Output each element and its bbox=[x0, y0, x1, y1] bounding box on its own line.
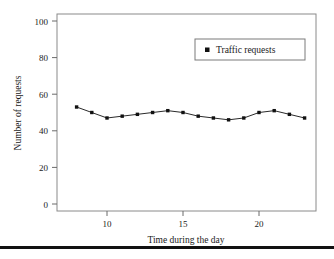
x-axis-title: Time during the day bbox=[148, 235, 225, 245]
data-point-marker bbox=[151, 111, 154, 114]
y-axis: 100 80 60 40 20 0 Number of requests bbox=[13, 17, 57, 210]
y-tick-label-20: 20 bbox=[39, 163, 49, 173]
y-tick-label-80: 80 bbox=[39, 53, 49, 63]
y-tick-label-100: 100 bbox=[35, 17, 49, 27]
data-point-marker bbox=[227, 118, 230, 121]
x-tick-label-10: 10 bbox=[103, 219, 113, 229]
y-tick-label-60: 60 bbox=[39, 90, 49, 100]
data-point-marker bbox=[212, 116, 215, 119]
legend-label-traffic-requests: Traffic requests bbox=[216, 45, 276, 55]
data-point-marker bbox=[303, 116, 306, 119]
data-point-marker bbox=[242, 116, 245, 119]
data-point-marker bbox=[197, 114, 200, 117]
y-tick-label-0: 0 bbox=[44, 200, 49, 210]
data-point-marker bbox=[181, 111, 184, 114]
page-bottom-rule bbox=[0, 246, 334, 249]
square-marker-icon bbox=[205, 48, 210, 53]
chart-figure: 100 80 60 40 20 0 Number of requests 10 … bbox=[0, 0, 334, 259]
data-point-marker bbox=[288, 113, 291, 116]
chart-legend[interactable]: Traffic requests bbox=[195, 39, 305, 60]
x-tick-label-15: 15 bbox=[179, 219, 189, 229]
data-point-marker bbox=[136, 113, 139, 116]
y-tick-label-40: 40 bbox=[39, 126, 49, 136]
data-point-marker bbox=[257, 111, 260, 114]
line-chart: 100 80 60 40 20 0 Number of requests 10 … bbox=[0, 0, 334, 259]
data-point-marker bbox=[75, 105, 78, 108]
data-point-marker bbox=[166, 109, 169, 112]
data-point-marker bbox=[105, 116, 108, 119]
data-point-marker bbox=[90, 111, 93, 114]
data-point-marker bbox=[121, 114, 124, 117]
x-tick-label-20: 20 bbox=[255, 219, 265, 229]
y-axis-title: Number of requests bbox=[13, 75, 23, 150]
x-axis: 10 15 20 Time during the day bbox=[103, 211, 265, 245]
data-point-marker bbox=[273, 109, 276, 112]
